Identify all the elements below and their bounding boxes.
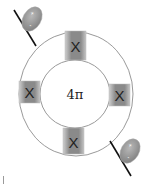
charge-ellipse-top-left: + - [18,3,47,35]
charge-ellipse-bottom-right: + - [116,135,145,167]
center-label: 4π [67,87,84,102]
x-label: X [70,38,80,55]
x-square-bottom: X [63,128,84,154]
x-square-left: X [19,81,40,103]
x-square-top: X [65,31,86,60]
x-square-right: X [109,84,130,106]
ring-diagram: + - + - X X X X 4π [0,0,164,188]
x-label: X [24,84,34,101]
x-label: X [68,134,78,151]
corner-mark [3,176,4,184]
x-label: X [114,87,124,104]
